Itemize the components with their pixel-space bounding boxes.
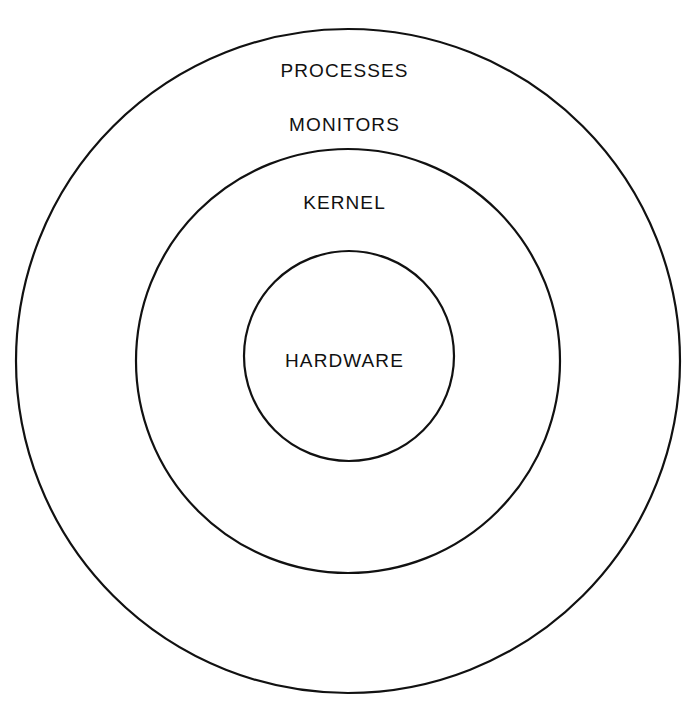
label-monitors: MONITORS — [0, 115, 689, 135]
label-hardware: HARDWARE — [0, 351, 689, 371]
label-kernel: KERNEL — [0, 193, 689, 213]
label-processes: PROCESSES — [0, 61, 689, 81]
concentric-ring-diagram: PROCESSES MONITORS KERNEL HARDWARE — [0, 0, 689, 716]
